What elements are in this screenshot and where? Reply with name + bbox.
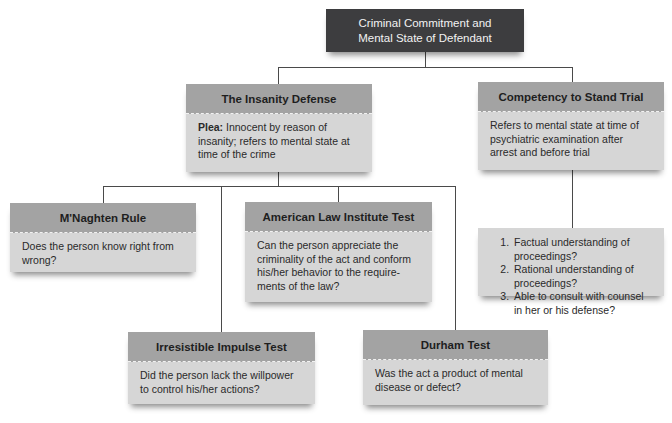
plea-label: Plea: bbox=[198, 121, 223, 133]
mnaghten-node: M'Naghten Rule Does the person know righ… bbox=[10, 203, 196, 272]
insanity-defense-node: The Insanity Defense Plea: Innocent by r… bbox=[186, 84, 372, 172]
root-node: Criminal Commitment and Mental State of … bbox=[326, 9, 524, 52]
connector-root-down bbox=[425, 52, 426, 68]
insanity-defense-title: The Insanity Defense bbox=[186, 84, 372, 114]
connector-to-durham bbox=[455, 186, 456, 330]
criteria-item: Rational understanding of proceedings? bbox=[512, 263, 654, 290]
connector-tests-horizontal bbox=[103, 186, 456, 187]
durham-test-question: Was the act a product of mental disease … bbox=[363, 360, 548, 402]
connector-to-irresistible bbox=[221, 186, 222, 332]
competency-title: Competency to Stand Trial bbox=[478, 82, 664, 112]
ali-test-question: Can the person appreciate the criminalit… bbox=[245, 232, 432, 301]
root-title-line1: Criminal Commitment and bbox=[358, 16, 492, 31]
connector-to-mnaghten bbox=[103, 186, 104, 203]
durham-test-title: Durham Test bbox=[363, 330, 548, 360]
connector-to-insanity bbox=[278, 67, 279, 84]
competency-description: Refers to mental state at time of psychi… bbox=[478, 112, 664, 168]
connector-insanity-down bbox=[278, 172, 279, 187]
mnaghten-question: Does the person know right from wrong? bbox=[10, 233, 196, 275]
durham-test-node: Durham Test Was the act a product of men… bbox=[363, 330, 548, 405]
irresistible-impulse-title: Irresistible Impulse Test bbox=[128, 332, 315, 362]
competency-criteria-node: Factual understanding of proceedings? Ra… bbox=[478, 228, 664, 296]
insanity-defense-body: Plea: Innocent by reason of insanity; re… bbox=[186, 114, 372, 170]
competency-criteria-list: Factual understanding of proceedings? Ra… bbox=[478, 236, 654, 317]
ali-test-node: American Law Institute Test Can the pers… bbox=[245, 202, 432, 302]
connector-top-horizontal bbox=[278, 67, 573, 68]
criteria-item: Able to consult with counsel in her or h… bbox=[512, 290, 654, 317]
connector-to-competency bbox=[572, 67, 573, 82]
irresistible-impulse-node: Irresistible Impulse Test Did the person… bbox=[128, 332, 315, 404]
irresistible-impulse-question: Did the person lack the willpower to con… bbox=[128, 362, 315, 404]
root-title-line2: Mental State of Defendant bbox=[358, 31, 492, 46]
criteria-item: Factual understanding of proceedings? bbox=[512, 236, 654, 263]
connector-to-ali bbox=[338, 186, 339, 202]
connector-competency-down bbox=[572, 170, 573, 228]
mnaghten-title: M'Naghten Rule bbox=[10, 203, 196, 233]
ali-test-title: American Law Institute Test bbox=[245, 202, 432, 232]
competency-node: Competency to Stand Trial Refers to ment… bbox=[478, 82, 664, 170]
